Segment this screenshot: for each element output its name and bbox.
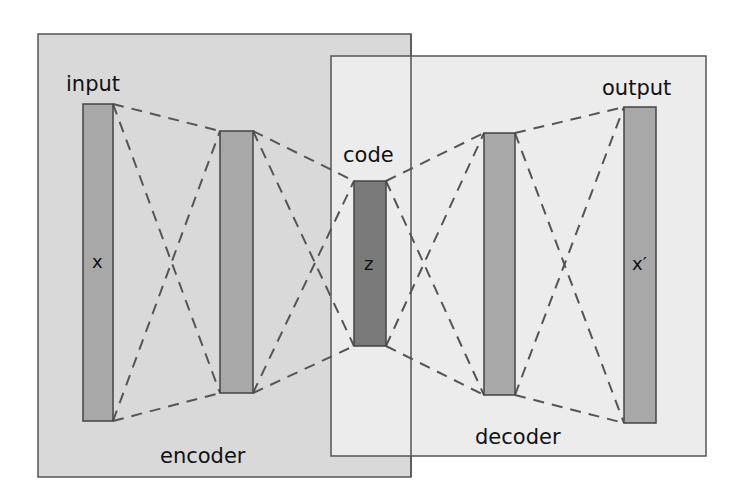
output-label: output [602,78,671,99]
input-label: input [66,74,120,95]
decoder-label: decoder [475,427,561,448]
encoder-label: encoder [160,446,246,467]
code-label: code [343,145,394,166]
output-symbol-x-prime: x′ [632,255,647,273]
input-symbol-x: x [92,253,103,271]
decoder-hidden-layer-bar [484,133,515,395]
encoder-hidden-layer-bar [220,131,253,393]
code-symbol-z: z [364,255,373,273]
